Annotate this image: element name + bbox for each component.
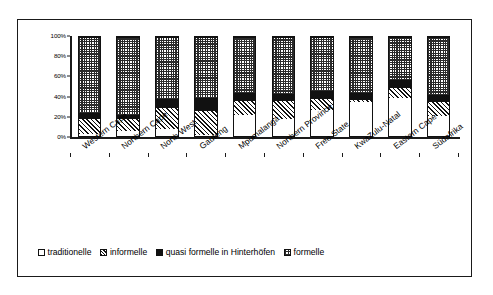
legend-label: formelle <box>294 247 325 257</box>
y-tick-label: 20% <box>54 114 66 120</box>
bar-segment <box>273 37 295 94</box>
bar-segment <box>195 37 217 98</box>
y-tick-mark <box>67 56 70 57</box>
legend-label: quasi formelle in Hinterhöfen <box>166 247 275 257</box>
x-tick-mark <box>70 153 71 157</box>
bar-segment <box>428 37 450 95</box>
chart-frame: 0%20%40%60%80%100% Western CapeNorthern … <box>17 19 472 277</box>
x-tick-mark <box>148 153 149 157</box>
x-tick-mark <box>109 153 110 157</box>
y-tick-label: 40% <box>54 93 66 99</box>
legend-item[interactable]: traditionelle <box>38 247 91 257</box>
legend-item[interactable]: quasi formelle in Hinterhöfen <box>156 247 275 257</box>
bar-segment <box>389 87 411 99</box>
y-tick-label: 0% <box>57 134 66 140</box>
bar-segment <box>156 99 178 107</box>
x-tick-mark <box>225 153 226 157</box>
y-tick-label: 80% <box>54 53 66 59</box>
bar-column[interactable] <box>194 36 218 137</box>
y-tick-mark <box>67 96 70 97</box>
x-tick-mark <box>264 153 265 157</box>
legend-swatch-icon <box>284 249 291 256</box>
bar-segment <box>311 37 333 91</box>
bar-segment <box>195 98 217 110</box>
bar-segment <box>156 37 178 99</box>
x-tick-mark <box>342 153 343 157</box>
legend-swatch-icon <box>100 249 107 256</box>
bar-segment <box>311 91 333 98</box>
chart-legend: traditionelleinformellequasi formelle in… <box>38 247 333 257</box>
x-tick-mark <box>186 153 187 157</box>
legend-label: informelle <box>110 247 147 257</box>
bar-segment <box>234 37 256 93</box>
y-tick-label: 100% <box>51 33 66 39</box>
bar-segment <box>234 93 256 100</box>
x-tick-mark <box>380 153 381 157</box>
y-tick-mark <box>67 76 70 77</box>
y-tick-label: 60% <box>54 73 66 79</box>
bar-column[interactable] <box>233 36 257 137</box>
bar-segment <box>79 37 101 113</box>
bar-segment <box>350 37 372 93</box>
x-tick-mark <box>458 153 459 157</box>
legend-swatch-icon <box>38 249 45 256</box>
bar-column[interactable] <box>349 36 373 137</box>
bar-column[interactable] <box>78 36 102 137</box>
legend-label: traditionelle <box>48 247 92 257</box>
bar-segment <box>117 37 139 115</box>
bar-segment <box>234 100 256 115</box>
x-tick-mark <box>419 153 420 157</box>
legend-swatch-icon <box>156 249 163 256</box>
y-tick-mark <box>67 137 70 138</box>
bar-segment <box>389 37 411 80</box>
legend-item[interactable]: formelle <box>284 247 324 257</box>
bar-segment <box>389 80 411 87</box>
y-tick-mark <box>67 116 70 117</box>
y-tick-mark <box>67 36 70 37</box>
x-tick-mark <box>303 153 304 157</box>
legend-item[interactable]: informelle <box>100 247 147 257</box>
